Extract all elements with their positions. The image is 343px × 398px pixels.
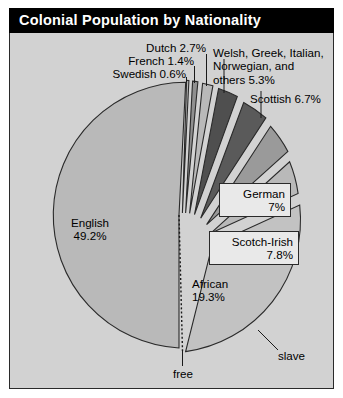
pie-label-dutch: Dutch 2.7% [88, 41, 206, 54]
chart-title-bar: Colonial Population by Nationality [9, 8, 334, 33]
pie-label-others: Welsh, Greek, Italian, Norwegian, and ot… [213, 46, 334, 86]
pie-label-english: English 49.2% [48, 216, 132, 243]
annotation-slave: slave [278, 349, 328, 362]
pie-label-scotch-irish: Scotch-Irish 7.8% [212, 235, 293, 262]
pie-label-swedish: Swedish 0.6% [68, 67, 186, 80]
pie-label-german: German 7% [222, 187, 285, 214]
pie-label-african: African 19.3% [192, 277, 272, 304]
figure: Colonial Population by Nationality [0, 0, 343, 398]
leader-line-slave [258, 330, 278, 350]
page-title: Colonial Population by Nationality [19, 12, 261, 28]
annotation-free: free [158, 367, 208, 380]
pie-label-scotch-irish-box: Scotch-Irish 7.8% [209, 231, 299, 265]
pie-label-german-box: German 7% [219, 183, 291, 217]
pie-label-scottish: Scottish 6.7% [250, 92, 334, 105]
chart-panel: Dutch 2.7% French 1.4% Swedish 0.6% Wels… [9, 33, 334, 389]
pie-label-french: French 1.4% [76, 54, 194, 67]
